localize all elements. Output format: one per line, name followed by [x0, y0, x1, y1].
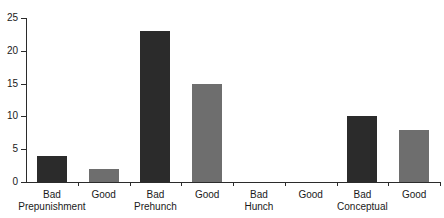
x-axis-group-label: Hunch — [207, 201, 311, 213]
x-axis-category-label: Good — [285, 189, 337, 201]
x-axis-group-label: Conceptual — [311, 201, 415, 213]
x-axis-tick — [337, 182, 338, 186]
y-axis-tick-label: 25 — [0, 13, 18, 23]
x-axis-tick — [440, 182, 441, 186]
y-axis-tick — [21, 149, 26, 150]
x-axis-category-label: Good — [388, 189, 440, 201]
x-axis-tick — [233, 182, 234, 186]
x-axis-category-label: Good — [181, 189, 233, 201]
bar — [399, 130, 429, 182]
x-axis-tick — [181, 182, 182, 186]
y-axis-tick-label: 10 — [0, 111, 18, 121]
bar-chart: 0510152025 BadGoodBadGoodBadGoodBadGoodP… — [0, 0, 444, 218]
x-axis-group-label: Prehunch — [104, 201, 208, 213]
y-axis-tick-label: 5 — [0, 144, 18, 154]
y-axis-tick — [21, 18, 26, 19]
y-axis-tick — [21, 116, 26, 117]
y-axis-tick — [21, 84, 26, 85]
x-axis-category-label: Good — [78, 189, 130, 201]
bar — [89, 169, 119, 182]
x-axis-group-label: Prepunishment — [0, 201, 104, 213]
x-axis-category-label: Bad — [130, 189, 182, 201]
x-axis-tick — [78, 182, 79, 186]
bar — [347, 116, 377, 182]
x-axis-tick — [388, 182, 389, 186]
y-axis-tick — [21, 182, 26, 183]
y-axis-line — [26, 18, 27, 182]
y-axis-tick-label: 20 — [0, 46, 18, 56]
x-axis-category-label: Bad — [233, 189, 285, 201]
x-axis-category-label: Bad — [337, 189, 389, 201]
x-axis-tick — [285, 182, 286, 186]
y-axis-tick — [21, 51, 26, 52]
y-axis-tick-label: 0 — [0, 177, 18, 187]
bar — [192, 84, 222, 182]
x-axis-category-label: Bad — [26, 189, 78, 201]
bar — [140, 31, 170, 182]
y-axis-tick-label: 15 — [0, 79, 18, 89]
x-axis-tick — [130, 182, 131, 186]
bar — [37, 156, 67, 182]
